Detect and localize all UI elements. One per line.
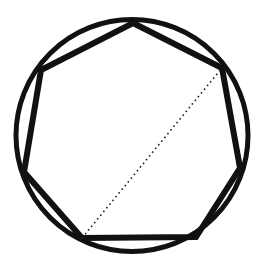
geometry-figure-svg: [0, 0, 261, 262]
dotted-diagonal-line: [82, 68, 222, 238]
figure-canvas: [0, 0, 261, 262]
circumscribed-circle: [16, 20, 248, 252]
inscribed-heptagon: [24, 23, 240, 238]
